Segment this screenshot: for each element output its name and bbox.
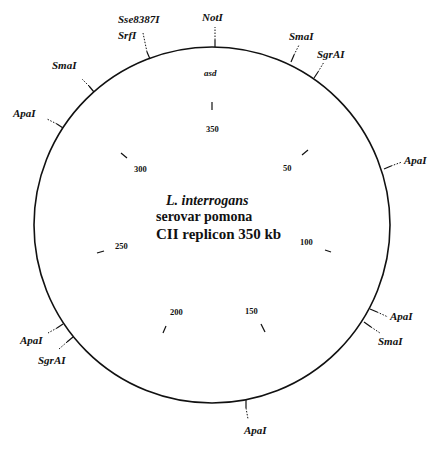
site-apai-1: ApaI <box>384 154 427 169</box>
site-label-sgrai-1: SgrAI <box>317 48 345 60</box>
site-sse8387i-srfi: Sse8387I SrfI <box>118 13 160 59</box>
replicon-circle <box>34 47 390 403</box>
scale-label-350: 350 <box>206 124 219 134</box>
site-label-sse8387i: Sse8387I <box>118 13 160 25</box>
site-apai-4: ApaI <box>19 324 63 346</box>
site-sgrai-1: SgrAI <box>314 48 345 78</box>
site-apai-3: ApaI <box>243 400 267 436</box>
scale-tick-100 <box>325 250 331 252</box>
scale-label-150: 150 <box>245 306 258 316</box>
scale-label-100: 100 <box>300 237 313 247</box>
site-label-smai-1: SmaI <box>289 30 314 42</box>
scale-label-50: 50 <box>283 163 292 173</box>
site-label-apai-4: ApaI <box>19 334 43 346</box>
site-sgrai-2: SgrAI <box>38 337 73 366</box>
site-label-apai-2: ApaI <box>389 310 413 322</box>
site-apai-2: ApaI <box>370 309 413 322</box>
title-replicon: CII replicon 350 kb <box>156 226 281 242</box>
scale-tick-150 <box>261 324 265 332</box>
site-noti: NotI <box>201 11 224 47</box>
title-serovar: serovar pomona <box>156 209 252 224</box>
site-label-srfi: SrfI <box>118 29 137 41</box>
site-label-noti: NotI <box>201 11 224 23</box>
site-apai-5: ApaI <box>12 107 63 128</box>
scale-label-200: 200 <box>170 307 183 317</box>
title-organism: L. interrogans <box>165 193 249 208</box>
scale-label-300: 300 <box>134 164 147 174</box>
scale-tick-50 <box>302 150 308 155</box>
map-title: L. interrogans serovar pomona CII replic… <box>156 193 281 242</box>
site-label-apai-1: ApaI <box>403 154 427 166</box>
site-smai-1: SmaI <box>289 30 314 62</box>
scale-tick-250 <box>97 251 104 253</box>
scale-tick-200 <box>163 326 166 333</box>
scale-tick-300 <box>121 153 127 158</box>
scale-label-250: 250 <box>115 241 128 251</box>
site-label-smai-3: SmaI <box>52 59 77 71</box>
site-smai-2: SmaI <box>364 322 403 347</box>
restriction-map: 350 50 100 150 200 250 300 asd NotI <box>0 0 443 450</box>
site-smai-3: SmaI <box>52 59 94 92</box>
site-label-apai-3: ApaI <box>243 424 267 436</box>
site-label-smai-2: SmaI <box>378 335 403 347</box>
gene-label-asd: asd <box>204 68 217 78</box>
site-label-apai-5: ApaI <box>12 107 36 119</box>
site-label-sgrai-2: SgrAI <box>38 354 66 366</box>
